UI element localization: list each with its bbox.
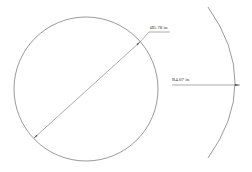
- radius-dimension-label[interactable]: R4.07 in: [172, 77, 189, 82]
- arc-shape[interactable]: [208, 7, 235, 158]
- diameter-dimension-line[interactable]: [34, 42, 140, 138]
- cad-drawing-canvas: [0, 0, 252, 172]
- circle-shape[interactable]: [14, 17, 158, 161]
- diameter-dimension-label[interactable]: Ø5.78 in: [150, 25, 168, 30]
- arrowhead-icon: [235, 84, 240, 86]
- diameter-leader-line: [140, 32, 170, 42]
